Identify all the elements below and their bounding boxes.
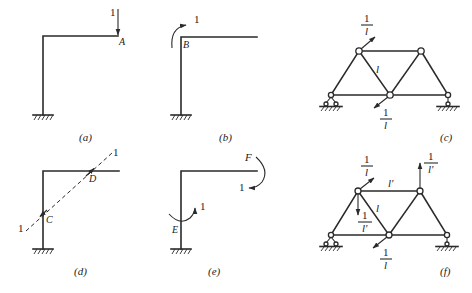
point-label-e: E bbox=[171, 224, 178, 235]
load-top-den: l bbox=[365, 25, 368, 37]
caption-a: (a) bbox=[79, 131, 92, 144]
load-label: 1 bbox=[110, 6, 116, 18]
panel-f: 1 l l' 1 l' 1 l' l 1 l (f) bbox=[320, 150, 458, 278]
truss-node bbox=[417, 188, 423, 194]
frame-members bbox=[43, 36, 118, 115]
caption-b: (b) bbox=[219, 131, 232, 144]
caption-d: (d) bbox=[74, 265, 87, 278]
panel-b: 1 B (b) bbox=[171, 13, 257, 144]
frame-members bbox=[43, 171, 119, 249]
load-label-bottom: 1 bbox=[18, 222, 24, 234]
unit-force-arrow-icon bbox=[361, 37, 375, 49]
panel-a: 1 A (a) bbox=[33, 6, 126, 144]
roller-support-icon bbox=[320, 97, 342, 111]
fixed-support-icon bbox=[33, 115, 53, 120]
load-top-right-num: 1 bbox=[428, 150, 434, 162]
fixed-support-icon bbox=[33, 249, 53, 254]
pin-support-icon bbox=[437, 97, 459, 111]
unit-force-arrow-icon bbox=[360, 178, 374, 189]
load-mid-num: 1 bbox=[362, 209, 368, 221]
load-bottom-den: l bbox=[384, 119, 387, 131]
truss-members bbox=[331, 191, 447, 235]
load-bottom-num: 1 bbox=[383, 106, 389, 118]
truss-members bbox=[331, 51, 448, 95]
member-label-diag: l bbox=[376, 202, 379, 214]
load-top-left-num: 1 bbox=[364, 153, 370, 165]
member-label-top: l' bbox=[388, 177, 394, 189]
truss-node bbox=[328, 92, 333, 97]
load-top-right-den: l' bbox=[428, 163, 434, 175]
load-label-top: 1 bbox=[113, 146, 119, 158]
caption-f: (f) bbox=[440, 265, 451, 278]
fixed-support-icon bbox=[171, 249, 191, 254]
fixed-support-icon bbox=[171, 115, 191, 120]
figure-canvas: 1 A (a) 1 B (b) bbox=[0, 0, 472, 293]
dashed-action-line bbox=[26, 153, 112, 231]
caption-c: (c) bbox=[440, 131, 453, 144]
truss-node bbox=[445, 92, 450, 97]
member-label: l bbox=[376, 63, 379, 75]
panel-e: F 1 1 E (e) bbox=[169, 151, 265, 278]
roller-support-icon bbox=[320, 237, 342, 251]
point-label-c: C bbox=[46, 214, 53, 225]
load-top-left-den: l bbox=[365, 166, 368, 178]
caption-e: (e) bbox=[208, 265, 221, 278]
load-label: 1 bbox=[194, 13, 200, 25]
load-bottom-num: 1 bbox=[383, 246, 389, 258]
load-mid-den: l' bbox=[362, 222, 368, 234]
load-label-e: 1 bbox=[200, 200, 206, 212]
panel-d: 1 1 D C (d) bbox=[18, 146, 119, 278]
point-label-b: B bbox=[183, 39, 189, 50]
truss-node bbox=[444, 232, 449, 237]
truss-node bbox=[328, 232, 333, 237]
truss-node bbox=[418, 48, 424, 54]
point-label-f: F bbox=[244, 151, 252, 163]
panel-c: 1 l l 1 l (c) bbox=[320, 12, 459, 144]
load-label-f: 1 bbox=[239, 181, 245, 193]
point-label-d: D bbox=[88, 173, 97, 184]
frame-members bbox=[181, 171, 257, 249]
unit-moment-e-icon bbox=[169, 208, 195, 221]
point-label-a: A bbox=[118, 36, 126, 47]
load-bottom-den: l bbox=[384, 259, 387, 271]
pin-support-icon bbox=[436, 237, 458, 251]
frame-members bbox=[181, 37, 257, 115]
load-top-num: 1 bbox=[364, 12, 370, 24]
